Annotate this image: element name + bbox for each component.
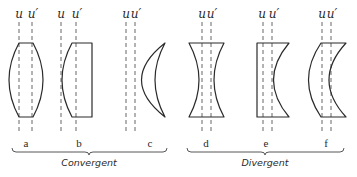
lens-a: u u′ a xyxy=(9,7,43,149)
u-prime-label-f: u′ xyxy=(327,7,338,21)
u-label-a: u xyxy=(15,7,23,21)
lens-b: u u′ b xyxy=(57,7,92,149)
divergent-brace xyxy=(187,148,344,155)
u-label-c: u xyxy=(122,7,130,21)
lens-e-label: e xyxy=(264,137,269,149)
lens-b-shape xyxy=(62,43,92,117)
lens-f: u u′ f xyxy=(309,7,347,149)
u-prime-label-b: u′ xyxy=(72,7,83,21)
convergent-label: Convergent xyxy=(61,157,118,168)
u-prime-label-c: u′ xyxy=(131,7,142,21)
lens-c: u u′ c xyxy=(122,7,165,149)
lens-types-diagram: u u′ a u u′ b u u′ c u u′ d u u′ e xyxy=(0,0,357,177)
divergent-group: Divergent xyxy=(187,148,344,168)
lens-e: u u′ e xyxy=(257,7,289,149)
lens-c-shape xyxy=(142,43,166,117)
convergent-group: Convergent xyxy=(12,148,167,168)
u-label-f: u xyxy=(318,7,326,21)
u-prime-label-a: u′ xyxy=(28,7,39,21)
lens-f-label: f xyxy=(324,137,328,149)
divergent-label: Divergent xyxy=(242,157,290,168)
lens-e-shape xyxy=(257,43,289,117)
u-label-d: u xyxy=(198,7,206,21)
lens-f-shape xyxy=(309,43,347,117)
lens-a-label: a xyxy=(24,137,29,149)
u-prime-label-e: u′ xyxy=(269,7,280,21)
lens-c-label: c xyxy=(148,137,153,149)
lens-a-shape xyxy=(9,43,43,117)
lens-d-label: d xyxy=(203,137,209,149)
u-prime-label-d: u′ xyxy=(207,7,218,21)
convergent-brace xyxy=(12,148,167,155)
u-label-b: u xyxy=(57,7,65,21)
u-label-e: u xyxy=(258,7,266,21)
lens-b-label: b xyxy=(76,137,82,149)
lens-d-shape xyxy=(189,43,224,117)
lens-d: u u′ d xyxy=(189,7,224,149)
